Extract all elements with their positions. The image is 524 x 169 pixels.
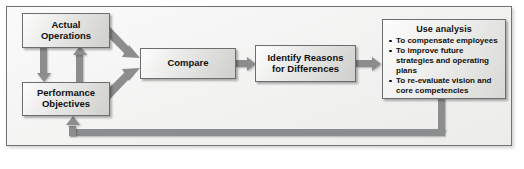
node-actual-operations-line2: Operations bbox=[41, 31, 91, 42]
node-identify-reasons-line1: Identify Reasons bbox=[267, 53, 343, 64]
node-performance-objectives-line2: Objectives bbox=[37, 99, 95, 110]
use-analysis-bullets: To compensate employees To improve futur… bbox=[388, 36, 500, 96]
list-item: To improve future strategies and operati… bbox=[388, 46, 500, 75]
node-compare-label: Compare bbox=[167, 58, 208, 69]
node-compare[interactable]: Compare bbox=[140, 48, 236, 79]
arrow-identify-to-use-shaft bbox=[356, 60, 373, 67]
node-identify-reasons-line2: for Differences bbox=[267, 64, 343, 75]
list-item: To compensate employees bbox=[388, 36, 500, 46]
arrow-feedback-head bbox=[66, 116, 80, 125]
node-use-analysis[interactable]: Use analysis To compensate employees To … bbox=[382, 19, 506, 99]
use-analysis-title: Use analysis bbox=[388, 24, 500, 34]
arrow-feedback-vertical-left bbox=[69, 126, 76, 136]
arrow-actual-to-performance-head bbox=[37, 73, 51, 82]
arrow-performance-to-actual-shaft bbox=[76, 55, 83, 82]
node-performance-objectives[interactable]: Performance Objectives bbox=[22, 82, 110, 116]
node-actual-operations-line1: Actual bbox=[41, 20, 91, 31]
node-identify-reasons[interactable]: Identify Reasons for Differences bbox=[255, 45, 356, 82]
node-actual-operations[interactable]: Actual Operations bbox=[22, 13, 110, 48]
arrow-identify-to-use-head bbox=[372, 57, 381, 71]
diagram-canvas: Actual Operations Performance Objectives… bbox=[0, 0, 524, 169]
arrow-feedback-horizontal bbox=[69, 129, 445, 136]
arrow-actual-to-performance-shaft bbox=[40, 48, 47, 74]
list-item: To re-evaluate vision and core competenc… bbox=[388, 76, 500, 96]
arrow-feedback-vertical-right bbox=[438, 99, 445, 132]
